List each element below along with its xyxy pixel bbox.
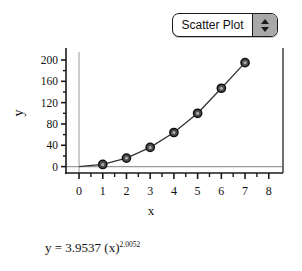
plot-type-selected-value[interactable]: Scatter Plot [173,14,252,36]
data-point [99,160,107,168]
y-tick-label: 0 [52,161,58,173]
triangle-down-icon[interactable] [261,27,269,32]
x-tick-label: 4 [171,184,177,198]
y-tick-label: 200 [41,54,59,66]
data-point [241,59,249,67]
x-tick-label: 0 [76,184,82,198]
x-tick-label: 2 [123,184,129,198]
screenshot-root: Scatter Plot 04080120160200012345678 y x… [0,0,302,271]
data-point [146,143,154,151]
fit-equation: y = 3.9537 (x)2.0052 [45,240,140,256]
data-point [170,128,178,136]
plot-type-control[interactable]: Scatter Plot [172,13,280,39]
data-point [194,109,202,117]
data-curve [79,63,245,167]
y-tick-label: 40 [47,139,59,151]
plot-type-stepper-buttons[interactable] [252,14,277,36]
x-tick-label: 7 [242,184,248,198]
y-tick-label: 120 [41,97,59,109]
fit-equation-base: y = 3.9537 (x) [45,240,120,255]
data-point [217,84,225,92]
x-tick-label: 3 [147,184,153,198]
x-tick-label: 6 [218,184,224,198]
plot-type-select[interactable]: Scatter Plot [172,13,278,37]
x-tick-label: 8 [266,184,272,198]
y-tick-label: 80 [47,118,59,130]
x-axis-label: x [0,203,302,219]
fit-equation-exponent: 2.0052 [120,240,141,249]
y-tick-label: 160 [41,75,59,87]
triangle-up-icon[interactable] [261,19,269,24]
x-tick-label: 5 [195,184,201,198]
x-tick-label: 1 [100,184,106,198]
data-point [122,154,130,162]
y-axis-label: y [10,104,28,122]
